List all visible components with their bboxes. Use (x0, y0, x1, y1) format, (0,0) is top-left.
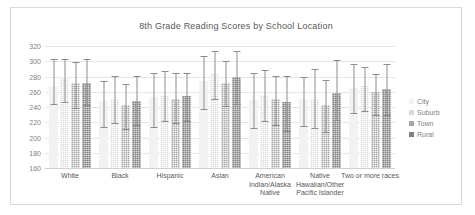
error-bar-cap (133, 76, 140, 77)
legend-item-label: City (417, 98, 429, 105)
error-bar-cap (61, 102, 68, 103)
error-bar-cap (272, 125, 279, 126)
bar-slot (232, 46, 241, 168)
bar-slot (349, 46, 358, 168)
error-bar-cap (83, 59, 90, 60)
error-bar-cap (233, 51, 240, 52)
error-bar (336, 60, 337, 120)
error-bar (275, 76, 276, 126)
error-bar-cap (72, 108, 79, 109)
error-bar (214, 51, 215, 99)
chart-legend: CitySuburbTownRural (409, 96, 463, 140)
error-bar-cap (122, 84, 129, 85)
legend-item-label: Town (417, 120, 433, 127)
y-axis-tick-label: 300 (29, 58, 41, 65)
error-bar-cap (361, 111, 368, 112)
legend-item-rural[interactable]: Rural (409, 129, 463, 140)
error-bar-cap (200, 56, 207, 57)
error-bar (364, 67, 365, 110)
error-bar-cap (222, 106, 229, 107)
y-axis-tick-label: 160 (29, 165, 41, 172)
legend-item-label: Rural (417, 131, 434, 138)
error-bar (164, 71, 165, 121)
y-axis-tick-label: 200 (29, 134, 41, 141)
error-bar (314, 69, 315, 128)
bar-slot (71, 46, 80, 168)
chart-card: 8th Grade Reading Scores by School Locat… (10, 7, 462, 205)
bar-group (195, 46, 245, 168)
error-bar-cap (361, 67, 368, 68)
error-bar (286, 76, 287, 131)
error-bar-cap (161, 121, 168, 122)
error-bar-cap (172, 73, 179, 74)
bar-slot (132, 46, 141, 168)
bar-slot (99, 46, 108, 168)
chart-title: 8th Grade Reading Scores by School Locat… (11, 21, 461, 31)
error-bar-cap (172, 123, 179, 124)
error-bar (75, 62, 76, 108)
y-axis-tick-label: 220 (29, 119, 41, 126)
error-bar-cap (100, 81, 107, 82)
error-bar-cap (311, 128, 318, 129)
gridline (45, 168, 395, 169)
bar-slot (371, 46, 380, 168)
error-bar (375, 74, 376, 115)
error-bar (325, 80, 326, 132)
error-bar-cap (122, 129, 129, 130)
error-bar-cap (322, 80, 329, 81)
error-bar-cap (272, 76, 279, 77)
bar-slot (299, 46, 308, 168)
bar-slot (310, 46, 319, 168)
error-bar-cap (161, 71, 168, 72)
bar-slot (82, 46, 91, 168)
bar-group (95, 46, 145, 168)
bar-group (145, 46, 195, 168)
error-bar-cap (211, 99, 218, 100)
error-bar (53, 59, 54, 104)
error-bar-cap (233, 104, 240, 105)
y-axis-tick-label: 180 (29, 149, 41, 156)
bar-slot (271, 46, 280, 168)
error-bar-cap (383, 64, 390, 65)
error-bar-cap (150, 73, 157, 74)
y-axis-tick-label: 320 (29, 43, 41, 50)
bar-slot (382, 46, 391, 168)
bar-slot (360, 46, 369, 168)
error-bar-cap (311, 69, 318, 70)
error-bar (203, 56, 204, 109)
bar-slot (49, 46, 58, 168)
error-bar-cap (300, 77, 307, 78)
error-bar (136, 76, 137, 125)
error-bar-cap (183, 121, 190, 122)
error-bar (353, 64, 354, 114)
error-bar-cap (200, 109, 207, 110)
error-bar-cap (350, 113, 357, 114)
bar-slot (182, 46, 191, 168)
x-axis-tick-label: Two or more races (339, 172, 401, 181)
error-bar (303, 77, 304, 127)
legend-swatch-icon (409, 110, 414, 115)
error-bar (225, 61, 226, 106)
bar-slot (210, 46, 219, 168)
error-bar (125, 84, 126, 129)
bar-slot (321, 46, 330, 168)
legend-swatch-icon (409, 132, 414, 137)
error-bar-cap (383, 115, 390, 116)
error-bar (236, 51, 237, 104)
error-bar (64, 59, 65, 102)
error-bar-cap (72, 62, 79, 63)
error-bar-cap (333, 60, 340, 61)
error-bar-cap (322, 132, 329, 133)
error-bar-cap (283, 76, 290, 77)
error-bar (253, 73, 254, 129)
bar-slot (160, 46, 169, 168)
bar-slot (171, 46, 180, 168)
legend-item-town[interactable]: Town (409, 118, 463, 129)
error-bar-cap (261, 121, 268, 122)
error-bar-cap (183, 73, 190, 74)
error-bar-cap (111, 123, 118, 124)
error-bar-cap (83, 105, 90, 106)
legend-item-suburb[interactable]: Suburb (409, 107, 463, 118)
error-bar-cap (222, 61, 229, 62)
legend-item-city[interactable]: City (409, 96, 463, 107)
